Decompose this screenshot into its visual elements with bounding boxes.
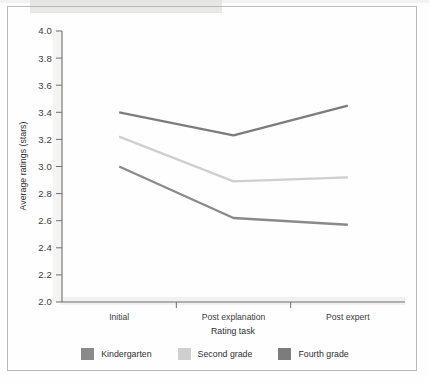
chart-legend: KindergartenSecond gradeFourth grade bbox=[30, 344, 400, 364]
plot-area: 2.02.22.42.62.83.03.23.43.63.84.0 Initia… bbox=[0, 0, 429, 382]
legend-item-kindergarten[interactable]: Kindergarten bbox=[81, 348, 151, 360]
category-label-group: InitialPost explanationPost expert bbox=[109, 312, 370, 322]
x-axis-title: Rating task bbox=[211, 326, 256, 336]
x-category-label: Post explanation bbox=[202, 312, 266, 322]
y-tick-label: 3.6 bbox=[38, 80, 52, 91]
figure-root: 2.02.22.42.62.83.03.23.43.63.84.0 Initia… bbox=[0, 0, 429, 382]
y-tick-label: 2.4 bbox=[38, 242, 52, 253]
y-tick-group: 2.02.22.42.62.83.03.23.43.63.84.0 bbox=[38, 25, 62, 307]
y-axis-title: Average ratings (stars) bbox=[18, 122, 28, 211]
y-tick-label: 4.0 bbox=[38, 25, 52, 36]
legend-swatch-icon bbox=[278, 348, 291, 360]
y-tick-label: 3.4 bbox=[38, 107, 52, 118]
legend-item-fourth-grade[interactable]: Fourth grade bbox=[278, 348, 348, 360]
legend-swatch-icon bbox=[81, 348, 94, 360]
line-chart: 2.02.22.42.62.83.03.23.43.63.84.0 Initia… bbox=[0, 0, 429, 382]
y-tick-label: 2.2 bbox=[38, 269, 52, 280]
y-tick-label: 3.0 bbox=[38, 161, 52, 172]
series-line-fourth-grade bbox=[119, 106, 348, 136]
legend-label: Kindergarten bbox=[101, 349, 151, 359]
x-category-label: Post expert bbox=[326, 312, 370, 322]
legend-label: Second grade bbox=[198, 349, 253, 359]
y-tick-label: 2.0 bbox=[38, 296, 52, 307]
y-tick-label: 3.2 bbox=[38, 134, 52, 145]
series-line-second-grade bbox=[119, 137, 348, 182]
series-group bbox=[119, 106, 348, 225]
series-line-kindergarten bbox=[119, 167, 348, 225]
x-category-label: Initial bbox=[109, 312, 129, 322]
x-tick-group bbox=[176, 302, 290, 308]
y-tick-label: 2.8 bbox=[38, 188, 52, 199]
legend-item-second-grade[interactable]: Second grade bbox=[178, 348, 253, 360]
y-tick-label: 3.8 bbox=[38, 53, 52, 64]
y-tick-label: 2.6 bbox=[38, 215, 52, 226]
legend-swatch-icon bbox=[178, 348, 191, 360]
legend-label: Fourth grade bbox=[298, 349, 348, 359]
